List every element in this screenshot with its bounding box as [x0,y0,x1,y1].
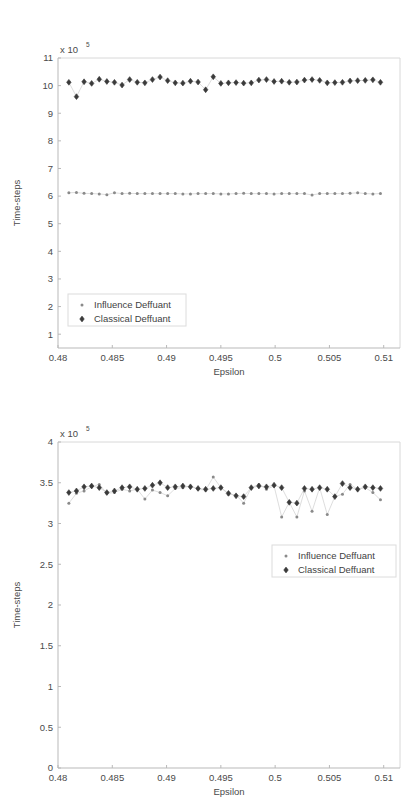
data-point [143,80,148,86]
data-point [355,78,360,84]
y-tick-label: 11 [43,52,53,63]
data-point [150,482,155,488]
data-point [364,192,367,195]
y-tick-label: 2.5 [40,559,53,570]
x-tick-label: 0.505 [318,772,342,783]
data-point [295,79,300,85]
data-point [379,192,382,195]
data-point [188,484,193,490]
data-point [128,192,131,195]
plot-area-top: 12345678910110.480.4850.490.4950.50.5050… [0,20,412,395]
legend: Influence DeffuantClassical Deffuant [272,545,396,577]
y-axis-exponent: x 105 [60,425,90,439]
data-point [227,192,230,195]
data-point [127,77,132,83]
data-point [356,191,359,194]
data-point [158,480,163,486]
data-point [165,78,170,84]
data-point [280,192,283,195]
legend-label: Influence Deffuant [94,299,171,310]
y-tick-label: 3 [48,273,53,284]
data-point [67,502,70,505]
data-point [226,490,231,496]
x-tick-label: 0.51 [374,772,393,783]
data-point [197,192,200,195]
data-point [302,486,307,492]
data-point [204,192,207,195]
data-point [295,192,298,195]
data-point [74,94,79,100]
data-point [166,192,169,195]
data-point [317,77,322,83]
y-tick-label: 1.5 [40,640,53,651]
data-point [166,494,169,497]
data-point [150,77,155,83]
data-point [295,515,298,518]
y-tick-label: 0.5 [40,722,53,733]
plot-area-bottom: 00.511.522.533.540.480.4850.490.4950.50.… [0,400,412,810]
data-point [174,192,177,195]
data-point [234,80,239,86]
data-point [219,81,224,87]
plot-svg-bottom: 00.511.522.533.540.480.4850.490.4950.50.… [0,400,412,810]
data-point [189,192,192,195]
data-point [326,192,329,195]
x-tick-label: 0.49 [157,352,176,363]
data-point [143,498,146,501]
data-point [188,78,193,84]
data-point [120,82,125,88]
data-point [371,77,376,83]
data-point [341,192,344,195]
data-point [90,192,93,195]
x-tick-label: 0.505 [318,352,342,363]
data-point [325,486,330,492]
data-point [143,486,148,492]
data-point [326,513,329,516]
data-point [67,490,72,496]
data-point [159,192,162,195]
data-point [97,485,102,491]
data-point [105,193,108,196]
series-classical [67,74,383,100]
plot-svg-top: 12345678910110.480.4850.490.4950.50.5050… [0,20,412,395]
exponent-base: x 10 [60,428,78,439]
data-point [173,80,178,86]
data-point [83,192,86,195]
data-point [333,192,336,195]
data-point [242,192,245,195]
data-point [257,192,260,195]
data-point [234,493,239,499]
data-point [249,80,254,86]
data-point [67,191,70,194]
x-tick-label: 0.48 [49,772,68,783]
data-point [67,79,72,85]
data-point [250,192,253,195]
y-tick-label: 6 [48,190,53,201]
data-point [371,491,374,494]
y-tick-label: 7 [48,163,53,174]
data-point [287,499,292,505]
exponent-base: x 10 [60,44,78,55]
legend-label: Classical Deffuant [298,564,375,575]
data-point [325,80,330,86]
y-tick-label: 2 [48,599,53,610]
x-axis-title: Epsilon [213,786,244,797]
x-tick-label: 0.48 [49,352,68,363]
data-point [89,81,94,87]
data-point [311,510,314,513]
data-point [341,493,344,496]
x-axis-title: Epsilon [213,366,244,377]
data-point [98,192,101,195]
data-point [287,79,292,85]
data-point [333,80,338,86]
data-point [363,77,368,83]
x-tick-label: 0.51 [374,352,393,363]
y-tick-label: 4 [48,436,53,447]
y-tick-label: 1 [48,681,53,692]
x-tick-label: 0.485 [100,772,124,783]
y-tick-label: 4 [48,246,53,257]
data-point [264,77,269,83]
data-point [378,486,383,492]
data-point [151,489,154,492]
data-point [318,192,321,195]
